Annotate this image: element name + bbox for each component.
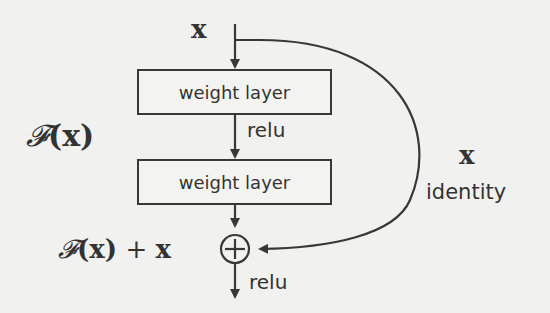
relu-label-2: relu (249, 270, 287, 294)
input-x-label: x (191, 14, 207, 44)
residual-function-label: 𝓕(x) (26, 118, 94, 154)
output-sum-label: 𝓕(x) + x (58, 234, 171, 265)
weight-layer-2-label: weight layer (179, 172, 291, 193)
weight-layer-2: weight layer (137, 159, 332, 205)
relu-label-1: relu (247, 118, 285, 142)
weight-layer-1: weight layer (137, 69, 332, 115)
shortcut-x-label: x (459, 140, 475, 170)
weight-layer-1-label: weight layer (179, 82, 291, 103)
residual-block-diagram: x weight layer relu weight layer 𝓕(x) 𝓕(… (0, 0, 550, 313)
identity-label: identity (426, 180, 506, 204)
